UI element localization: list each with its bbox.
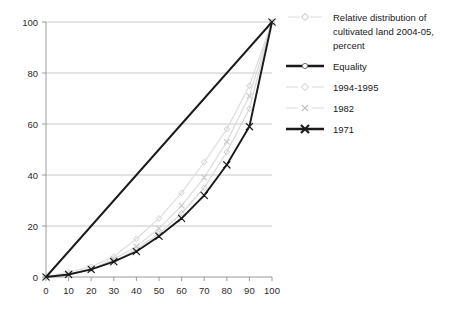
lorenz-curve-chart: 100 80 60 40 20 0 0 10 20 30 40 50 60 70… <box>0 0 455 316</box>
y-tick-label: 0 <box>33 272 38 283</box>
series-Equality <box>46 22 272 277</box>
y-tick-label: 100 <box>22 17 38 28</box>
x-axis-ticks <box>46 277 272 281</box>
x-tick-label: 0 <box>43 285 48 296</box>
x-tick-label: 50 <box>154 285 165 296</box>
y-axis-ticks <box>42 22 46 277</box>
y-tick-label: 80 <box>27 68 38 79</box>
x-tick-label: 90 <box>244 285 255 296</box>
data-series-layer <box>43 19 275 280</box>
x-tick-label: 10 <box>63 285 74 296</box>
y-axis-labels: 100 80 60 40 20 0 <box>22 17 38 283</box>
data-point <box>179 203 184 208</box>
data-point <box>224 139 229 144</box>
data-point <box>201 192 207 198</box>
data-point <box>202 175 207 180</box>
y-tick-label: 40 <box>27 170 38 181</box>
x-tick-label: 70 <box>199 285 210 296</box>
x-tick-label: 60 <box>176 285 187 296</box>
y-tick-label: 20 <box>27 221 38 232</box>
x-tick-label: 30 <box>109 285 120 296</box>
data-point <box>224 162 230 168</box>
grid-lines <box>46 22 272 226</box>
x-tick-label: 20 <box>86 285 97 296</box>
chart-svg: 100 80 60 40 20 0 0 10 20 30 40 50 60 70… <box>0 0 455 316</box>
x-tick-label: 40 <box>131 285 142 296</box>
series-line <box>46 22 272 277</box>
y-tick-label: 60 <box>27 119 38 130</box>
x-tick-label: 100 <box>264 285 280 296</box>
x-axis-labels: 0 10 20 30 40 50 60 70 80 90 100 <box>43 285 280 296</box>
x-tick-label: 80 <box>222 285 233 296</box>
